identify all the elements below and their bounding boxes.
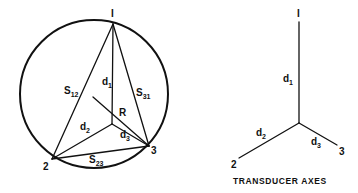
label-d2: d2 — [80, 121, 90, 134]
axis-2 — [239, 123, 299, 158]
label-s23: S23 — [89, 154, 104, 167]
vertex-label-2: 2 — [43, 161, 49, 172]
line-d1 — [112, 24, 113, 124]
caption-transducer-axes: TRANSDUCER AXES — [233, 176, 327, 186]
transducer-diagram: I 2 3 R S12 S31 S23 d1 d2 d3 I 2 3 d1 d2… — [0, 0, 358, 193]
label-d1: d1 — [102, 76, 112, 89]
axis-label-2: 2 — [231, 159, 237, 170]
vertex-label-1: I — [111, 8, 114, 19]
label-d3: d3 — [120, 129, 130, 142]
side-s12 — [52, 24, 113, 159]
center-label-r: R — [119, 107, 127, 118]
label-s12: S12 — [64, 85, 79, 98]
left-diagram: I 2 3 R S12 S31 S23 d1 d2 d3 — [20, 8, 168, 172]
axis-label-3: 3 — [339, 146, 345, 157]
label-s31: S31 — [136, 87, 151, 100]
axis-label-d1: d1 — [283, 73, 293, 86]
vertex-label-3: 3 — [151, 145, 157, 156]
axis-label-d2: d2 — [256, 127, 266, 140]
axis-label-d3: d3 — [311, 136, 321, 149]
axis-label-1: I — [297, 8, 300, 19]
right-diagram: I 2 3 d1 d2 d3 TRANSDUCER AXES — [231, 8, 345, 186]
